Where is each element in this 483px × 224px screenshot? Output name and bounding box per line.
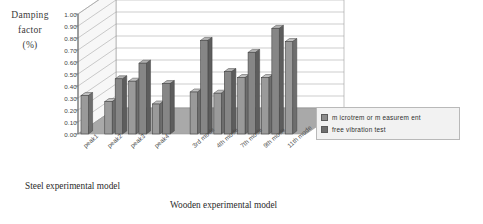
- x-tick-label-11th-mode: 11th mode: [286, 124, 313, 149]
- legend-item-0: m icrotrem or m easurem ent: [321, 112, 456, 123]
- x-tick-label-7th-mode: 7th mode: [238, 126, 263, 149]
- legend-item-1: free vibration test: [321, 124, 456, 135]
- x-tick-label-peak3: peak3: [129, 132, 147, 149]
- x-tick-label-peak4: peak4: [153, 132, 171, 149]
- x-tick-label-peak2: peak2: [105, 132, 123, 149]
- x-tick-label-peak1: peak1: [82, 132, 100, 149]
- x-tick-label-4th-mode: 4th mode: [214, 126, 239, 149]
- legend-swatch-icon-0: [321, 114, 328, 121]
- legend-label-0: m icrotrem or m easurem ent: [332, 114, 421, 121]
- chart-root: Damping factor (%) 0.000.100.200.300.400…: [0, 0, 483, 224]
- x-tick-label-9th-mode: 9th mode: [262, 126, 287, 149]
- legend: m icrotrem or m easurem ent free vibrati…: [316, 107, 460, 140]
- legend-swatch-icon-1: [321, 126, 328, 133]
- caption-steel-model: Steel experimental model: [25, 181, 120, 191]
- x-tick-label-3rd-mode: 3rd mode: [191, 126, 216, 150]
- caption-wooden-model: Wooden experimental model: [170, 200, 277, 210]
- legend-label-1: free vibration test: [332, 126, 386, 133]
